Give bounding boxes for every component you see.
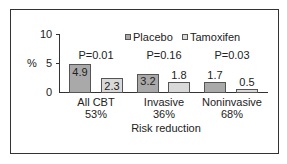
bar-placebo-noninvasive xyxy=(204,82,226,93)
p-value-all-cbt: P=0.01 xyxy=(78,49,113,61)
category-noninvasive-sub: 68% xyxy=(221,108,243,120)
category-invasive-sub: 36% xyxy=(153,108,175,120)
value-placebo-all-cbt: 4.9 xyxy=(72,66,87,78)
legend-placebo-label: Placebo xyxy=(133,31,173,43)
value-tamoxifen-noninvasive: 0.5 xyxy=(239,76,254,88)
p-value-invasive: P=0.16 xyxy=(146,49,181,61)
y-tick-0: 0 xyxy=(46,86,52,98)
value-placebo-noninvasive: 1.7 xyxy=(207,69,222,81)
value-placebo-invasive: 3.2 xyxy=(140,75,155,87)
y-axis xyxy=(59,34,60,92)
value-tamoxifen-invasive: 1.8 xyxy=(171,69,186,81)
legend-tamoxifen-label: Tamoxifen xyxy=(190,31,240,43)
category-noninvasive: Noninvasive xyxy=(202,96,262,108)
y-tick-5: 5 xyxy=(46,57,52,69)
p-value-noninvasive: P=0.03 xyxy=(214,49,249,61)
legend-tamoxifen-swatch xyxy=(182,34,188,40)
category-all-cbt: All CBT xyxy=(77,96,114,108)
bar-tamoxifen-noninvasive xyxy=(236,89,258,93)
legend-placebo-swatch xyxy=(125,34,131,40)
category-invasive: Invasive xyxy=(144,96,184,108)
category-all-cbt-sub: 53% xyxy=(85,108,107,120)
y-axis-label: % xyxy=(27,57,37,69)
x-axis-label: Risk reduction xyxy=(131,122,201,134)
bar-tamoxifen-invasive xyxy=(168,82,190,93)
y-tick-10: 10 xyxy=(40,28,52,40)
value-tamoxifen-all-cbt: 2.3 xyxy=(104,80,119,92)
